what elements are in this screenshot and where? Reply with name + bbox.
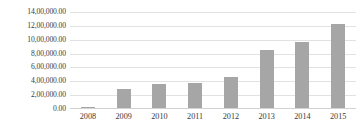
x-tick-label: 2010	[151, 111, 167, 122]
x-tick-label: 2012	[223, 111, 239, 122]
x-tick-label: 2011	[187, 111, 203, 122]
bar-2009	[117, 89, 131, 108]
y-tick-label: 0.00	[53, 105, 66, 113]
bar-2014	[295, 42, 309, 109]
bar-2013	[260, 50, 274, 108]
bars-layer	[70, 12, 356, 109]
bar-2011	[188, 83, 202, 108]
plot-area	[70, 12, 356, 109]
bar-2012	[224, 77, 238, 108]
y-tick-label: 6,00,000.00	[31, 63, 66, 71]
x-tick-label: 2014	[294, 111, 310, 122]
x-tick-label: 2013	[258, 111, 274, 122]
y-tick-label: 14,00,000.00	[27, 8, 66, 16]
y-tick-label: 2,00,000.00	[31, 91, 66, 99]
y-tick-label: 12,00,000.00	[27, 22, 66, 30]
x-tick-label: 2008	[80, 111, 96, 122]
bar-chart-figure: 14,00,000.00 12,00,000.00 10,00,000.00 8…	[0, 0, 362, 133]
bar-2008	[81, 107, 95, 109]
y-axis: 14,00,000.00 12,00,000.00 10,00,000.00 8…	[0, 12, 66, 109]
x-tick-label: 2009	[115, 111, 131, 122]
bar-2010	[152, 84, 166, 108]
y-tick-label: 8,00,000.00	[31, 50, 66, 58]
x-tick-label: 2015	[330, 111, 346, 122]
x-axis: 20082009201020112012201320142015	[70, 111, 356, 125]
bar-2015	[331, 24, 345, 108]
y-tick-label: 10,00,000.00	[27, 36, 66, 44]
y-tick-label: 4,00,000.00	[31, 77, 66, 85]
